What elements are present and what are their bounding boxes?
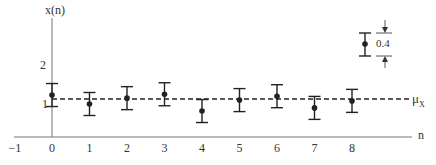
- data-point: [309, 96, 321, 119]
- x-tick-label: 6: [274, 141, 280, 156]
- x-tick-label: 3: [162, 141, 168, 156]
- data-point: [84, 93, 96, 116]
- data-point: [346, 89, 358, 112]
- data-point: [196, 100, 208, 123]
- x-tick-label: 8: [349, 141, 355, 156]
- plot-area: [0, 0, 436, 165]
- x-tick-label: 2: [124, 141, 130, 156]
- x-tick-label: 4: [199, 141, 205, 156]
- mean-label: μX: [412, 91, 425, 109]
- x-tick-label: 1: [87, 141, 93, 156]
- y-tick-2: 2: [40, 58, 46, 73]
- x-tick-label: 0: [49, 141, 55, 156]
- mean-symbol: μ: [412, 91, 419, 106]
- scale-label: 0.4: [376, 37, 390, 49]
- data-point: [234, 89, 246, 112]
- y-axis-label: x(n): [45, 3, 65, 18]
- x-tick-label: −1: [9, 141, 22, 156]
- chart: x(n) n μX 0.4 2 1 −1012345678: [0, 0, 436, 165]
- data-point: [159, 83, 171, 106]
- x-axis-label: n: [418, 128, 424, 143]
- mean-subscript: X: [419, 100, 425, 109]
- data-point: [271, 85, 283, 108]
- data-point: [121, 87, 133, 110]
- x-tick-label: 7: [312, 141, 318, 156]
- x-tick-label: 5: [237, 141, 243, 156]
- y-tick-1: 1: [42, 97, 48, 112]
